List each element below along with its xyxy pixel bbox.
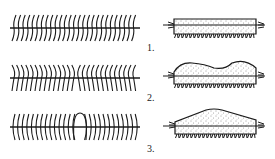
row-3-body bbox=[163, 109, 265, 138]
row-3-axis bbox=[10, 113, 140, 140]
row-2-axis bbox=[10, 65, 140, 91]
row-2-label: 2. bbox=[147, 92, 155, 103]
row-3-label: 3. bbox=[147, 143, 155, 154]
row-2-body bbox=[163, 61, 265, 88]
row-1-body bbox=[163, 19, 265, 38]
figure-canvas bbox=[0, 0, 275, 159]
row-1-axis bbox=[10, 15, 140, 41]
row-1-label: 1. bbox=[147, 42, 155, 53]
